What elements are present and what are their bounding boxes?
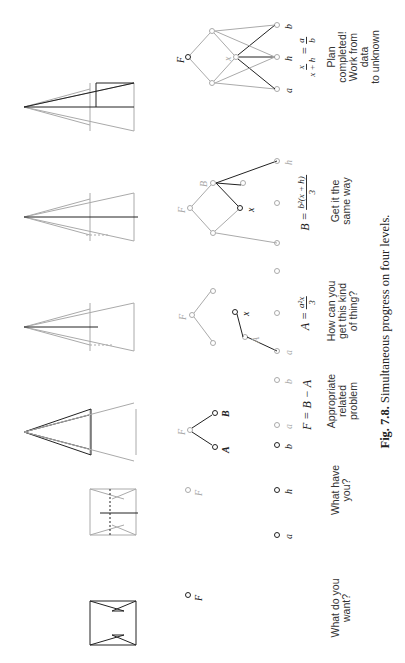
question-col1: What do you want? <box>330 579 352 638</box>
equation-col3: F = B − A <box>300 380 315 430</box>
node-label-b: b <box>283 379 294 384</box>
node-label-B: B <box>198 181 209 187</box>
frustum-col1 <box>81 553 145 645</box>
numerator: a²x <box>296 296 307 309</box>
equation-lhs: B = <box>298 212 312 230</box>
graph-col5 <box>188 159 280 246</box>
node-label-F: F <box>177 314 188 320</box>
node-label-a: a <box>283 350 294 355</box>
question-col3: Appropriate related problem <box>326 374 359 428</box>
node-label-a: a <box>283 534 294 539</box>
node-label-F: F <box>193 490 204 496</box>
denominator: x + h <box>307 58 317 77</box>
numerator: x <box>296 64 307 70</box>
question-col6: Plan completed! Work from data to unknow… <box>326 29 381 86</box>
equation-col6: xx + h = ab <box>296 37 317 77</box>
frustum-col2 <box>90 489 138 535</box>
node-label-a: a <box>283 424 294 429</box>
graph-col4 <box>190 269 280 354</box>
fraction: b²(x + h)3 <box>296 175 317 209</box>
pyramid-col4 <box>24 303 134 351</box>
node-label-x: x <box>222 57 233 61</box>
pyramid-col6 <box>24 83 134 131</box>
fraction: ab <box>296 37 317 44</box>
node-label-x: x <box>240 312 251 316</box>
node-label-a: a <box>283 88 294 93</box>
question-col2: What have you? <box>330 465 352 515</box>
equals-sign: = <box>298 47 312 55</box>
node-label-F: F <box>176 429 187 435</box>
numerator: a <box>296 37 307 44</box>
equation-lhs: A = <box>298 312 312 330</box>
node-label-h: h <box>283 489 294 494</box>
figure-page: F F a h b F A B a b F A x a F B x h F x … <box>0 0 405 663</box>
node-label-b: b <box>283 24 294 29</box>
graph-col3 <box>188 378 280 450</box>
pyramid-col5 <box>24 193 138 241</box>
node-label-x: x <box>245 208 256 212</box>
denominator: 3 <box>307 300 317 305</box>
node-label-b: b <box>283 444 294 449</box>
node-label-F: F <box>176 207 187 213</box>
node-label-F: F <box>193 595 204 601</box>
numerator: b²(x + h) <box>296 175 307 209</box>
question-col4: How can you get this kind of thing? <box>326 281 359 342</box>
pyramid-col3 <box>24 403 136 461</box>
node-label-h: h <box>283 160 294 165</box>
figure-caption-text: Simultaneous progress on four levels. <box>378 215 392 404</box>
denominator: 3 <box>307 190 317 195</box>
graph-col1 <box>186 593 191 598</box>
node-label-h: h <box>283 56 294 61</box>
figure-caption: Fig. 7.8. Simultaneous progress on four … <box>378 0 393 663</box>
equation-col5: B = b²(x + h)3 <box>296 175 317 231</box>
denominator: b <box>307 38 317 43</box>
question-col5: Get it the same way <box>330 177 352 224</box>
figure-number: Fig. 7.8. <box>378 406 392 448</box>
fraction: a²x3 <box>296 296 317 309</box>
node-label-A: A <box>220 446 231 453</box>
node-label-A: A <box>250 337 261 343</box>
fraction: xx + h <box>296 58 317 77</box>
node-label-B: B <box>220 410 231 417</box>
node-label-F: F <box>175 57 186 63</box>
equation-col4: A = a²x3 <box>296 296 317 330</box>
